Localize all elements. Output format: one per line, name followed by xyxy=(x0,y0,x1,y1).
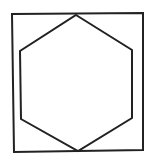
hexagon-in-square-figure xyxy=(0,0,152,165)
background xyxy=(0,0,152,165)
diagram-canvas xyxy=(0,0,152,165)
